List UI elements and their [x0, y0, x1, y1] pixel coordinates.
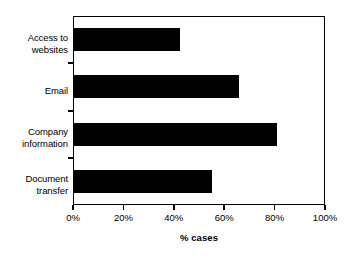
y-axis-tick-label: Access to websites: [0, 32, 68, 55]
y-axis-tick-mark: [68, 62, 73, 64]
x-axis-tick-mark: [72, 205, 74, 210]
bar-document-transfer: [73, 170, 212, 193]
bar-band: [73, 63, 325, 110]
x-axis-tick-mark: [223, 205, 225, 210]
bar-email: [73, 75, 239, 98]
x-axis-tick-label: 0%: [66, 212, 80, 223]
bar-company-information: [73, 123, 277, 146]
x-axis-tick-label: 100%: [313, 212, 337, 223]
x-axis-tick-mark: [324, 205, 326, 210]
y-axis-labels: Access to websites Email Company informa…: [0, 16, 68, 205]
bar-chart: Access to websites Email Company informa…: [0, 0, 353, 257]
x-axis-tick-label: 40%: [164, 212, 183, 223]
bar-band: [73, 158, 325, 205]
x-axis-tick-label: 60%: [215, 212, 234, 223]
x-axis-tick-mark: [274, 205, 276, 210]
x-axis-tick-label: 20%: [114, 212, 133, 223]
bar-band: [73, 111, 325, 158]
x-axis-tick-label: 80%: [265, 212, 284, 223]
x-axis-ticks: 0%20%40%60%80%100%: [73, 205, 325, 229]
x-axis-tick-mark: [123, 205, 125, 210]
y-axis-tick-label: Document transfer: [0, 173, 68, 196]
bar-band: [73, 16, 325, 63]
x-axis-tick-mark: [173, 205, 175, 210]
y-axis-tick-mark: [68, 157, 73, 159]
bars-container: [73, 16, 325, 205]
bar-access-to-websites: [73, 28, 180, 51]
y-axis-tick-label: Company information: [0, 126, 68, 149]
x-axis-title: % cases: [73, 232, 325, 243]
y-axis-tick-mark: [68, 110, 73, 112]
y-axis-tick-label: Email: [0, 85, 68, 97]
